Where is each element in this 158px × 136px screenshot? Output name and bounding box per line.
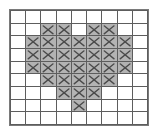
pixel-grid-row [11,11,148,24]
pixel-cell-empty[interactable] [11,23,26,36]
pixel-cell-filled[interactable] [26,61,41,74]
pixel-cell-filled[interactable] [102,36,117,49]
pixel-cell-empty[interactable] [11,112,26,125]
pixel-cell-empty[interactable] [71,11,86,24]
pixel-cell-empty[interactable] [102,99,117,112]
pixel-cell-filled[interactable] [41,48,56,61]
grid-frame [9,9,149,126]
pixel-cell-filled[interactable] [102,23,117,36]
pixel-cell-empty[interactable] [26,112,41,125]
pixel-cell-empty[interactable] [26,11,41,24]
pixel-cell-empty[interactable] [41,112,56,125]
pixel-cell-empty[interactable] [102,11,117,24]
pixel-cell-filled[interactable] [71,61,86,74]
pixel-cell-empty[interactable] [87,99,102,112]
pixel-cell-filled[interactable] [87,61,102,74]
pixel-cell-filled[interactable] [56,36,71,49]
x-mark-icon [26,36,40,48]
pixel-cell-filled[interactable] [87,74,102,87]
pixel-cell-filled[interactable] [56,86,71,99]
x-mark-icon [72,49,86,61]
pixel-cell-filled[interactable] [56,74,71,87]
pixel-cell-filled[interactable] [41,23,56,36]
pixel-cell-empty[interactable] [117,112,132,125]
pixel-cell-filled[interactable] [117,61,132,74]
pixel-cell-empty[interactable] [11,99,26,112]
pixel-cell-filled[interactable] [56,23,71,36]
pixel-cell-empty[interactable] [132,112,147,125]
pixel-cell-empty[interactable] [11,36,26,49]
pixel-cell-filled[interactable] [71,74,86,87]
pixel-cell-filled[interactable] [26,36,41,49]
pixel-cell-filled[interactable] [71,48,86,61]
pixel-cell-empty[interactable] [26,23,41,36]
pixel-cell-filled[interactable] [56,61,71,74]
pixel-cell-empty[interactable] [117,23,132,36]
pixel-cell-filled[interactable] [26,48,41,61]
pixel-cell-empty[interactable] [41,86,56,99]
x-mark-icon [87,24,101,36]
pixel-cell-filled[interactable] [102,74,117,87]
pixel-cell-empty[interactable] [132,99,147,112]
pixel-cell-filled[interactable] [102,48,117,61]
pixel-cell-empty[interactable] [87,11,102,24]
pixel-cell-filled[interactable] [41,36,56,49]
pixel-cell-empty[interactable] [26,99,41,112]
x-mark-icon [26,49,40,61]
pixel-cell-empty[interactable] [56,99,71,112]
pixel-cell-filled[interactable] [71,36,86,49]
pixel-cell-filled[interactable] [41,74,56,87]
pixel-cell-empty[interactable] [117,11,132,24]
pixel-cell-empty[interactable] [71,112,86,125]
pixel-cell-filled[interactable] [102,61,117,74]
x-mark-icon [41,74,55,86]
pixel-cell-empty[interactable] [132,61,147,74]
pixel-cell-empty[interactable] [117,74,132,87]
x-mark-icon [57,74,71,86]
x-mark-icon [41,62,55,74]
pixel-cell-empty[interactable] [11,11,26,24]
pixel-cell-empty[interactable] [26,74,41,87]
pixel-cell-filled[interactable] [117,36,132,49]
pixel-cell-empty[interactable] [41,11,56,24]
pixel-cell-empty[interactable] [132,74,147,87]
pixel-cell-filled[interactable] [56,48,71,61]
pixel-cell-empty[interactable] [87,112,102,125]
pixel-cell-filled[interactable] [71,99,86,112]
x-mark-icon [72,36,86,48]
x-mark-icon [41,36,55,48]
pixel-cell-empty[interactable] [11,61,26,74]
pixel-grid-body [11,11,148,125]
pixel-cell-empty[interactable] [71,23,86,36]
x-mark-icon [72,87,86,99]
pixel-cell-filled[interactable] [87,36,102,49]
pixel-cell-empty[interactable] [132,86,147,99]
pixel-cell-empty[interactable] [11,48,26,61]
pixel-cell-empty[interactable] [11,86,26,99]
x-mark-icon [102,74,116,86]
pixel-cell-empty[interactable] [132,48,147,61]
x-mark-icon [102,36,116,48]
x-mark-icon [57,87,71,99]
x-mark-icon [87,36,101,48]
pixel-cell-filled[interactable] [87,86,102,99]
pixel-cell-filled[interactable] [87,23,102,36]
pixel-cell-empty[interactable] [56,112,71,125]
pixel-cell-empty[interactable] [132,11,147,24]
pixel-cell-empty[interactable] [132,36,147,49]
pixel-cell-filled[interactable] [117,48,132,61]
pixel-grid-row [11,112,148,125]
pixel-cell-filled[interactable] [41,61,56,74]
pixel-cell-empty[interactable] [56,11,71,24]
pixel-cell-empty[interactable] [26,86,41,99]
pixel-cell-empty[interactable] [117,86,132,99]
pixel-cell-empty[interactable] [132,23,147,36]
pixel-cell-empty[interactable] [41,99,56,112]
pixel-cell-empty[interactable] [102,86,117,99]
pixel-cell-empty[interactable] [117,99,132,112]
pixel-grid-row [11,61,148,74]
pixel-cell-filled[interactable] [87,48,102,61]
pixel-cell-empty[interactable] [102,112,117,125]
pixel-cell-empty[interactable] [11,74,26,87]
pixel-cell-filled[interactable] [71,86,86,99]
